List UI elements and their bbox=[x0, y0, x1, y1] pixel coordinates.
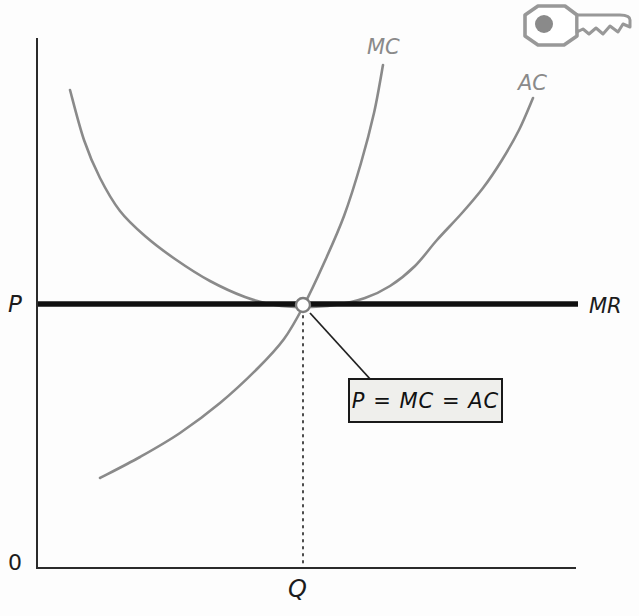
quantity-label: Q bbox=[288, 577, 307, 601]
annotation-pointer-line bbox=[310, 313, 371, 380]
ac-curve bbox=[70, 90, 533, 307]
annotation-text: P = MC = AC bbox=[352, 389, 499, 413]
economics-figure: P 0 Q MR MC AC P = MC = AC bbox=[0, 0, 639, 616]
equilibrium-point-marker bbox=[296, 298, 310, 312]
mc-curve-label: MC bbox=[367, 37, 400, 58]
ac-curve-label: AC bbox=[518, 73, 547, 94]
origin-label: 0 bbox=[8, 552, 22, 574]
key-shaft bbox=[577, 15, 630, 34]
key-dot bbox=[535, 15, 553, 33]
mc-curve bbox=[100, 65, 383, 478]
key-icon bbox=[525, 6, 630, 45]
mr-curve-label: MR bbox=[589, 296, 622, 317]
annotation-box: P = MC = AC bbox=[348, 378, 503, 423]
price-axis-label: P bbox=[8, 293, 22, 316]
